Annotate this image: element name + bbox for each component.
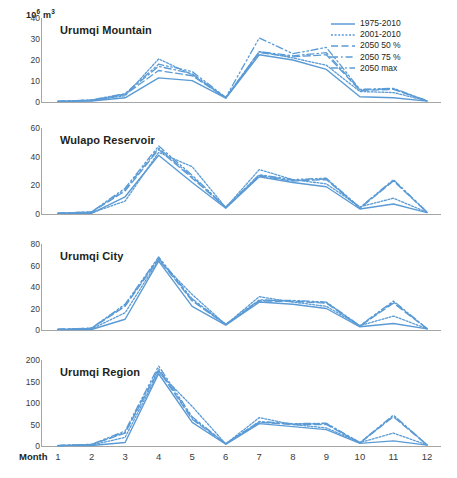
multi-panel-hydrograph-figure: 106 m3 1975-20102001-20102050 50 %2050 7… [0, 0, 457, 478]
y-tick-label: 60 [14, 262, 40, 270]
x-tick-label-12: 12 [417, 451, 437, 462]
y-tick-label: 50 [14, 421, 40, 429]
y-tick-label: 150 [14, 378, 40, 386]
panel-title: Urumqi City [60, 250, 123, 262]
y-tick-label: 40 [14, 153, 40, 161]
x-tick-label-7: 7 [249, 451, 269, 462]
panel-urumqi-region: 050100150200Urumqi Region [0, 360, 457, 446]
y-tick-label: 0 [14, 442, 40, 450]
panel-urumqi-city: 020406080Urumqi City [0, 244, 457, 330]
y-tick-label: 80 [14, 240, 40, 248]
y-tick-label: 40 [14, 14, 40, 22]
y-axis: 050100150200 [0, 360, 40, 446]
y-tick-label: 10 [14, 77, 40, 85]
y-tick-label: 20 [14, 181, 40, 189]
x-tick-label-4: 4 [149, 451, 169, 462]
y-tick-label: 60 [14, 124, 40, 132]
series-line-2001-2010 [58, 152, 427, 213]
series-line-1975-2010 [58, 374, 427, 446]
x-tick-label-1: 1 [48, 451, 68, 462]
x-axis: Month 123456789101112 [0, 451, 457, 471]
y-tick-label: 0 [14, 210, 40, 218]
y-axis: 0204060 [0, 128, 40, 214]
series-line-1975-2010 [58, 155, 427, 213]
x-axis-title: Month [19, 451, 48, 462]
x-tick-label-3: 3 [115, 451, 135, 462]
x-tick-label-11: 11 [383, 451, 403, 462]
x-tick-label-9: 9 [316, 451, 336, 462]
y-tick-label: 200 [14, 356, 40, 364]
y-tick-label: 0 [14, 326, 40, 334]
series-line-2001-2010 [58, 260, 427, 329]
panel-title: Wulapo Reservoir [60, 134, 155, 146]
panel-title: Urumqi Region [60, 366, 140, 378]
y-tick-label: 20 [14, 305, 40, 313]
y-axis: 020406080 [0, 244, 40, 330]
y-tick-label: 30 [14, 35, 40, 43]
x-tick-label-10: 10 [350, 451, 370, 462]
y-tick-label: 40 [14, 283, 40, 291]
y-tick-label: 20 [14, 56, 40, 64]
panel-urumqi-mountain: 010203040Urumqi Mountain [0, 18, 457, 102]
x-tick-label-2: 2 [82, 451, 102, 462]
x-tick-label-8: 8 [283, 451, 303, 462]
x-tick-label-5: 5 [182, 451, 202, 462]
y-axis: 010203040 [0, 18, 40, 102]
y-tick-label: 100 [14, 399, 40, 407]
panel-wulapo-reservoir: 0204060Wulapo Reservoir [0, 128, 457, 214]
x-tick-label-6: 6 [216, 451, 236, 462]
series-line-1975-2010 [58, 261, 427, 329]
series-line-1975-2010 [58, 55, 427, 102]
panel-title: Urumqi Mountain [60, 24, 152, 36]
y-tick-label: 0 [14, 98, 40, 106]
